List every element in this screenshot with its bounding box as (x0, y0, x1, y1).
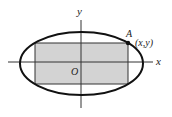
diagram-canvas: y x O A (x,y) (0, 0, 172, 117)
x-axis-label: x (155, 55, 161, 67)
point-a-coords: (x,y) (135, 37, 154, 49)
point-a-marker (126, 41, 130, 45)
origin-label: O (71, 66, 78, 77)
y-axis-label: y (76, 5, 82, 17)
point-a-label: A (125, 28, 133, 39)
